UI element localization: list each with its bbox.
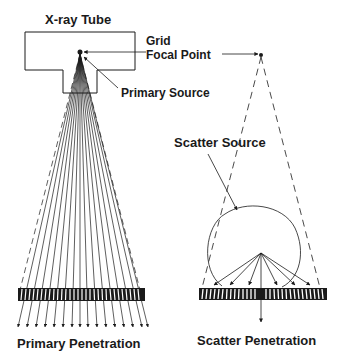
xray-tube-label: X-ray Tube xyxy=(45,12,111,27)
primary-grid xyxy=(18,288,145,301)
primary-focal-point xyxy=(78,50,83,55)
scatter-source-label: Scatter Source xyxy=(174,135,266,150)
scatter-penetration-label: Scatter Penetration xyxy=(197,333,316,348)
primary-penetration-label: Primary Penetration xyxy=(17,336,141,351)
primary-source-label: Primary Source xyxy=(121,86,210,100)
scatter-focal-point xyxy=(259,53,263,57)
scatter-source-arrow xyxy=(208,154,237,210)
focal-point-label: Focal Point xyxy=(146,48,211,62)
scatter-body xyxy=(208,206,301,287)
grid-diagram: X-ray Tube Grid Focal Point Primary Sour… xyxy=(0,0,348,359)
primary-source-arrow xyxy=(84,57,118,88)
scatter-grid xyxy=(199,288,327,300)
grid-label: Grid xyxy=(146,34,171,48)
scatter-rays xyxy=(214,253,310,322)
